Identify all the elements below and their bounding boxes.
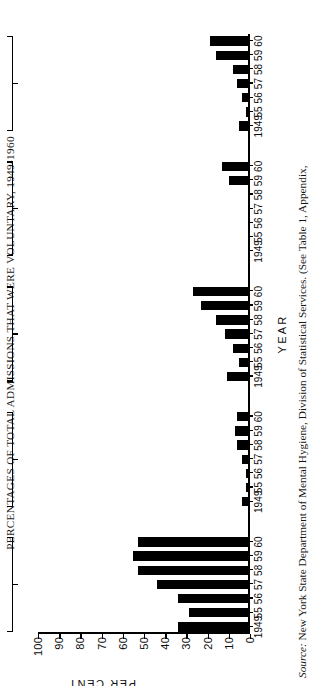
group-brace <box>4 537 14 632</box>
figure-source-note: Source: New York State Department of Men… <box>296 2 308 678</box>
x-tick-label: 55 <box>253 231 264 242</box>
x-tick-label: 55 <box>253 357 264 368</box>
x-tick-label: 60 <box>253 35 264 46</box>
x-tick-label: 57 <box>253 454 264 465</box>
bar <box>242 455 250 464</box>
x-tick-label: 60 <box>253 411 264 422</box>
y-tick-label: 40 <box>159 637 171 650</box>
bar <box>239 358 250 367</box>
x-tick-label: 56 <box>253 343 264 354</box>
x-tick-label: 58 <box>253 189 264 200</box>
bar <box>246 107 250 116</box>
x-tick-label: 56 <box>253 468 264 479</box>
bar <box>237 79 250 88</box>
group-brace <box>4 161 14 256</box>
x-tick-label: 57 <box>253 579 264 590</box>
bar <box>242 93 250 102</box>
bar <box>237 412 250 421</box>
source-label: Source: <box>296 643 308 678</box>
y-tick-label: 70 <box>96 637 108 650</box>
bar <box>138 566 250 575</box>
x-tick-label: 56 <box>253 92 264 103</box>
bar <box>239 121 250 130</box>
x-tick-label: 59 <box>253 50 264 61</box>
bar <box>210 36 250 45</box>
x-tick-label: 1949 <box>253 365 264 388</box>
x-tick-label: 57 <box>253 203 264 214</box>
bar <box>138 537 250 546</box>
x-tick-label: 1949 <box>253 240 264 263</box>
bar <box>233 344 250 353</box>
figure-root: PERCENTAGES OF TOTAL ADMISSIONS THAT WER… <box>0 0 323 686</box>
group-brace <box>4 286 14 381</box>
x-tick-label: 58 <box>253 314 264 325</box>
x-tick-label: 56 <box>253 217 264 228</box>
x-tick-label: 60 <box>253 286 264 297</box>
bar <box>227 372 250 381</box>
bar <box>233 65 250 74</box>
bar <box>178 594 250 603</box>
bar <box>133 551 250 560</box>
bar <box>246 469 250 478</box>
x-tick-label: 56 <box>253 593 264 604</box>
y-tick-label: 60 <box>117 637 129 650</box>
y-tick-label: 50 <box>138 637 150 650</box>
bar <box>216 315 250 324</box>
x-tick-label: 60 <box>253 161 264 172</box>
x-tick-label: 57 <box>253 328 264 339</box>
x-tick-label: 1949 <box>253 490 264 513</box>
x-tick-label: 58 <box>253 439 264 450</box>
y-tick-label: 100 <box>32 637 44 656</box>
x-tick-label: 58 <box>253 565 264 576</box>
x-tick-label: 57 <box>253 78 264 89</box>
bar <box>237 440 250 449</box>
bar <box>201 301 250 310</box>
bar <box>242 497 250 506</box>
bar <box>178 622 250 631</box>
y-tick-label: 80 <box>74 637 86 650</box>
x-tick-label: 55 <box>253 607 264 618</box>
x-tick-label: 59 <box>253 175 264 186</box>
x-tick-label: 1949 <box>253 115 264 138</box>
x-tick-label: 59 <box>253 425 264 436</box>
bar <box>222 162 250 171</box>
bar-chart-plot-area: 0102030405060708090100 19495556575859601… <box>38 34 250 634</box>
bar <box>189 608 250 617</box>
bar <box>225 329 250 338</box>
x-tick-label: 59 <box>253 300 264 311</box>
group-brace <box>4 36 14 131</box>
source-text: New York State Department of Mental Hygi… <box>296 166 308 644</box>
bar <box>235 426 250 435</box>
x-tick-label: 59 <box>253 550 264 561</box>
y-tick-label: 10 <box>223 637 235 650</box>
y-tick-label: 90 <box>53 637 65 650</box>
x-tick-label: 55 <box>253 106 264 117</box>
bar <box>193 287 250 296</box>
bar <box>246 483 250 492</box>
bar <box>229 176 250 185</box>
x-tick-label: 1949 <box>253 616 264 639</box>
y-tick-label: 30 <box>180 637 192 650</box>
bar <box>216 51 250 60</box>
group-brace <box>4 412 14 507</box>
y-tick-label: 20 <box>202 637 214 650</box>
x-tick-label: 60 <box>253 536 264 547</box>
x-tick-label: 55 <box>253 482 264 493</box>
x-axis-caption: YEAR <box>276 34 288 634</box>
x-tick-label: 58 <box>253 64 264 75</box>
bar <box>157 580 250 589</box>
